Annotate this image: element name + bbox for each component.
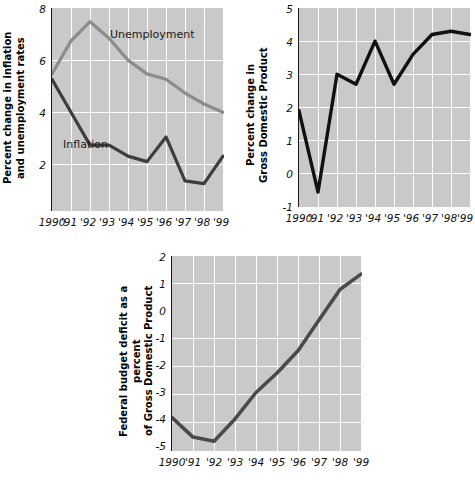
chart-deficit-plot-area	[172, 256, 362, 451]
series-line-deficit	[172, 274, 361, 441]
chart-gdp-series-layer	[299, 8, 471, 207]
y-tick-label: 6	[24, 56, 46, 67]
y-tick-label: 4	[271, 37, 293, 48]
y-tick-label: 2	[24, 160, 46, 171]
y-tick-label: 8	[24, 4, 46, 15]
y-tick-label: 2	[144, 252, 166, 263]
y-tick-label: 5	[271, 4, 293, 15]
x-tick-label: '99	[209, 217, 233, 228]
series-line-inflation	[52, 79, 223, 183]
x-tick-label: '99	[349, 457, 373, 468]
y-tick-label: -3	[138, 387, 166, 398]
y-tick-label: -1	[265, 202, 293, 213]
y-tick-label: 2	[271, 103, 293, 114]
chart-gdp: Percent change in Gross Domestic Product…	[237, 0, 475, 245]
chart-deficit: Federal budget deficit as a percent of G…	[112, 248, 374, 491]
y-tick-label: 4	[24, 108, 46, 119]
chart-inflation-unemployment: Percent change in inflation and unemploy…	[0, 0, 236, 245]
y-tick-label: -5	[138, 441, 166, 452]
y-tick-label: 0	[144, 306, 166, 317]
y-tick-label: 1	[144, 279, 166, 290]
y-tick-label: 1	[271, 136, 293, 147]
series-annotation-unemployment: Unemployment	[110, 29, 195, 40]
chart-deficit-series-layer	[172, 256, 362, 451]
chart-gdp-plot-area	[299, 8, 471, 207]
y-tick-label: -2	[138, 360, 166, 371]
y-tick-label: -1	[138, 333, 166, 344]
y-tick-label: -4	[138, 414, 166, 425]
series-annotation-inflation: Inflation	[63, 139, 108, 150]
series-line-gdp	[299, 31, 470, 192]
chart-gdp-y-axis-label: Percent change in Gross Domestic Product	[245, 40, 271, 190]
x-tick-label: '99	[453, 213, 475, 224]
y-tick-label: 0	[271, 169, 293, 180]
y-tick-label: 3	[271, 70, 293, 81]
